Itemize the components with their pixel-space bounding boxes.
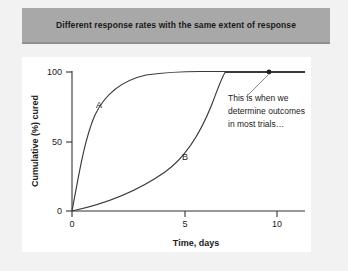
x-tick-label-10: 10 <box>272 219 282 229</box>
y-tick-label-100: 100 <box>47 67 62 77</box>
annotation-line-3: in most trials… <box>228 119 284 129</box>
figure-container: Different response rates with the same e… <box>0 0 348 271</box>
curve-b-label: B <box>182 152 188 162</box>
x-tick-label-0: 0 <box>69 219 74 229</box>
annotation-line-2: determine outcomes <box>228 106 305 116</box>
curve-a-label: A <box>96 100 102 110</box>
x-axis-title: Time, days <box>173 238 219 248</box>
x-tick-label-5: 5 <box>182 219 187 229</box>
annotation-line-1: This is when we <box>228 93 289 103</box>
y-tick-label-50: 50 <box>52 137 62 147</box>
y-axis-title: Cumulative (%) cured <box>30 95 40 187</box>
outcome-marker-dot <box>267 70 272 75</box>
y-tick-label-0: 0 <box>57 206 62 216</box>
chart-svg: 100 50 0 0 5 10 Time, days Cumulative (%… <box>0 0 348 271</box>
